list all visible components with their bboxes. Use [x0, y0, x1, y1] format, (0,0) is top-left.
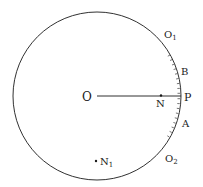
- point-N1: [95, 160, 97, 162]
- point-N: [160, 94, 162, 96]
- label-O1: O1: [164, 29, 177, 42]
- label-A: A: [181, 118, 190, 129]
- label-O2: O2: [165, 153, 178, 166]
- label-N1: N1: [100, 156, 113, 169]
- label-P: P: [184, 91, 192, 104]
- circle-diagram: O N P B A O1 O2 N1: [0, 0, 203, 187]
- label-O: O: [82, 90, 92, 104]
- label-N: N: [156, 98, 165, 109]
- label-B: B: [181, 66, 188, 77]
